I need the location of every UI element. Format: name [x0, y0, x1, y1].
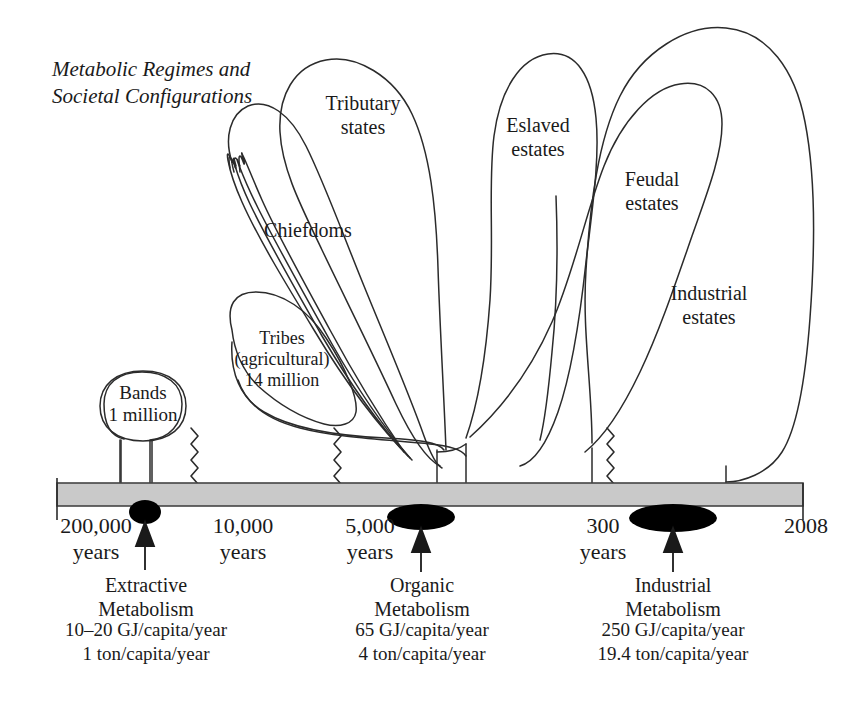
- regime-material-organic: 4 ton/capita/year: [312, 642, 532, 667]
- canopy-label-industrial-estates: Industrial estates: [644, 282, 774, 329]
- regime-energy-extractive: 10–20 GJ/capita/year: [34, 618, 258, 643]
- chiefdoms-lobe: [229, 157, 408, 456]
- regime-material-industrial: 19.4 ton/capita/year: [561, 642, 785, 667]
- chiefdoms-shell: [229, 104, 442, 468]
- canopy-label-tribes-agricultural: Tribes (agricultural) 14 million: [222, 328, 342, 392]
- industrial-estates-outline: [585, 28, 814, 483]
- canopy-label-chiefdoms: Chiefdoms: [238, 219, 378, 243]
- regime-material-extractive: 1 ton/capita/year: [34, 642, 258, 667]
- eslaved-estates-crease: [540, 196, 557, 440]
- regime-name-industrial: Industrial Metabolism: [597, 573, 749, 622]
- canopy-label-feudal-estates: Feudal estates: [592, 168, 712, 215]
- timeline-label-5000-years: 5,000 years: [320, 513, 420, 565]
- timeline-label-10000-years: 10,000 years: [188, 513, 298, 565]
- timeline-bar: [57, 483, 803, 506]
- metabolic-regimes-diagram: Metabolic Regimes and Societal Configura…: [0, 0, 861, 704]
- break-mark-1: [191, 428, 198, 489]
- break-mark-3: [607, 428, 614, 489]
- canopy-label-eslaved-estates: Eslaved estates: [478, 114, 598, 161]
- chiefdoms-outline: [239, 153, 404, 452]
- regime-energy-organic: 65 GJ/capita/year: [312, 618, 532, 643]
- break-mark-2: [334, 428, 341, 489]
- regime-name-extractive: Extractive Metabolism: [70, 573, 222, 622]
- regime-name-organic: Organic Metabolism: [346, 573, 498, 622]
- regime-energy-industrial: 250 GJ/capita/year: [561, 618, 785, 643]
- axis-break-marks: [191, 428, 614, 489]
- figure-title: Metabolic Regimes and Societal Configura…: [52, 56, 252, 111]
- timeline-label-300-years: 300 years: [563, 513, 643, 565]
- timeline-label-200000-years: 200,000 years: [36, 513, 156, 565]
- chiefdoms-outline-main: [232, 158, 410, 458]
- timeline-label-2008: 2008: [766, 513, 846, 539]
- canopy-label-tributary-states: Tributary states: [298, 92, 428, 139]
- chiefdoms-body: [227, 154, 412, 460]
- canopy-label-bands: Bands 1 million: [98, 382, 188, 427]
